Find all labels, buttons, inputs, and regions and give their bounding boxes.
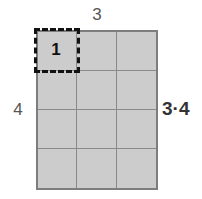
grid-cell	[38, 110, 77, 149]
grid-cell	[77, 32, 116, 71]
grid-cell	[117, 71, 156, 110]
grid-cell	[77, 71, 116, 110]
grid-cell	[117, 149, 156, 188]
top-dimension-label: 3	[36, 2, 158, 28]
highlighted-unit-square: 1	[34, 28, 80, 73]
unit-square-label: 1	[51, 41, 60, 58]
grid-cell	[38, 71, 77, 110]
grid-cell	[117, 110, 156, 149]
grid-cell	[77, 110, 116, 149]
grid-cell	[117, 32, 156, 71]
grid-cell	[77, 149, 116, 188]
figure-canvas: 3 4 3·4 1	[0, 0, 202, 199]
product-expression-label: 3·4	[162, 95, 202, 123]
grid-cell	[38, 149, 77, 188]
left-dimension-label: 4	[4, 97, 32, 123]
